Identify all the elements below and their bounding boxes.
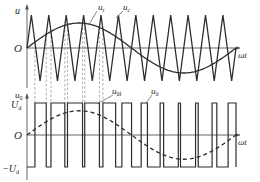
top-panel: u O ωt ur uc	[14, 2, 247, 103]
pwm-svg: u O ωt ur uc u0 Ud O −Ud ωt u0f	[0, 0, 260, 182]
bottom-x-axis-label: ωt	[238, 137, 247, 147]
carrier-leader-line	[116, 11, 123, 18]
carrier-label: uc	[123, 2, 131, 13]
top-y-axis-label: u	[15, 5, 20, 16]
pwm-diagram: u O ωt ur uc u0 Ud O −Ud ωt u0f	[0, 0, 260, 182]
reference-label: ur	[98, 2, 105, 13]
bottom-origin-label: O	[14, 129, 22, 141]
bottom-panel: u0 Ud O −Ud ωt u0f u0	[3, 86, 247, 180]
neg-level-label: −Ud	[3, 163, 20, 175]
reference-leader-line	[90, 11, 97, 23]
output-leader-line	[146, 95, 152, 103]
output-label: u0	[151, 86, 159, 97]
top-origin-label: O	[14, 42, 22, 54]
fundamental-label: u0f	[112, 86, 122, 97]
top-x-axis-label: ωt	[238, 50, 247, 60]
